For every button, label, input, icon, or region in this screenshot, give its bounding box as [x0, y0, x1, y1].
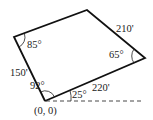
angle-arc-85 — [19, 34, 25, 47]
origin-label: (0, 0) — [34, 105, 57, 117]
angle-arc-25 — [70, 91, 71, 102]
side-label-150: 150' — [10, 67, 28, 78]
angle-arc-65 — [132, 49, 134, 63]
angle-label-65: 65° — [109, 49, 124, 60]
angle-label-25: 25° — [72, 89, 87, 100]
angle-label-92: 92° — [30, 80, 45, 91]
angle-label-85: 85° — [27, 39, 42, 50]
quadrilateral-diagram: 85° 210' 65° 150' 92° 220' 25° (0, 0) — [0, 0, 153, 120]
side-label-220: 220' — [92, 82, 110, 93]
side-label-210: 210' — [116, 23, 134, 34]
